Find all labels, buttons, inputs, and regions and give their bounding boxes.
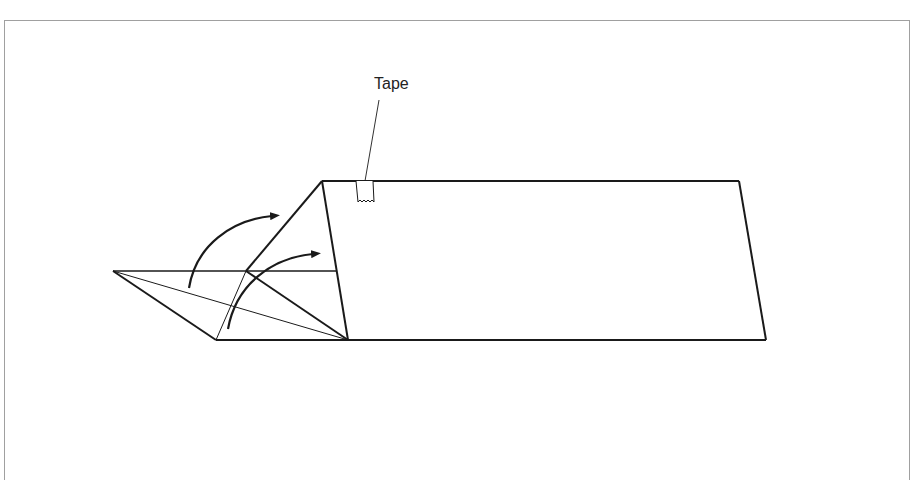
paper-rectangle (216, 181, 766, 340)
tape-label: Tape (374, 75, 409, 93)
fold-arrow-outer (189, 216, 272, 288)
tape-leader-line (365, 100, 379, 181)
tape-strip (356, 181, 374, 202)
